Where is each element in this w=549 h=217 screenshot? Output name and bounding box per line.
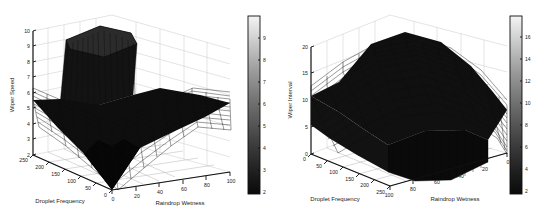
figure-canvas: 10 9 8 7 6 5 4 3 2 Wiper Speed 250 [0,0,549,217]
left-xtick-1: 200 [35,164,44,170]
left-surface-mesh [33,26,231,190]
right-ytick-0: 100 [385,192,394,198]
right-xtick-4: 200 [360,182,369,188]
right-z-axis: 20 15 10 5 0 Wiper Interval [287,44,314,157]
left-ztick-2: 8 [27,59,30,65]
left-plot-svg: 10 9 8 7 6 5 4 3 2 Wiper Speed 250 [0,0,274,217]
left-x-axis-title: Droplet Frequency [35,198,84,204]
right-ytick-2: 60 [434,179,440,185]
left-cbtick-3: 6 [263,101,266,107]
right-surface-mesh [311,32,507,181]
right-xtick-0: 0 [303,156,306,162]
right-ytick-4: 20 [482,166,488,172]
right-plot-svg: 20 15 10 5 0 Wiper Interval 0 50 100 150 [275,0,549,217]
left-z-axis-title: Wiper Speed [9,78,15,113]
left-cbtick-1: 8 [263,57,266,63]
right-xtick-2: 100 [329,169,338,175]
right-cbtick-0: 16 [525,34,531,40]
surface-plot-right: 20 15 10 5 0 Wiper Interval 0 50 100 150 [275,0,549,217]
left-ztick-0: 10 [24,28,30,34]
surface-plot-left: 10 9 8 7 6 5 4 3 2 Wiper Speed 250 [0,0,274,217]
right-ztick-0: 20 [302,44,308,50]
left-cbtick-0: 9 [263,35,266,41]
left-xtick-2: 150 [51,171,60,177]
left-ytick-5: 100 [227,178,236,184]
right-ytick-5: 0 [507,159,510,165]
right-x-axis-title: Droplet Frequency [310,196,359,202]
left-ytick-2: 40 [157,189,163,195]
left-cbtick-6: 3 [263,167,266,173]
left-cbtick-2: 7 [263,79,266,85]
left-cbtick-7: 2 [263,189,266,195]
right-ytick-3: 40 [458,173,464,179]
right-cbtick-6: 4 [525,166,528,172]
right-cbtick-3: 10 [525,100,531,106]
right-y-axis-title: Raindrop Wetness [430,196,479,202]
right-ztick-2: 10 [302,97,308,103]
left-ztick-6: 4 [27,121,30,127]
right-ytick-1: 80 [410,186,416,192]
left-ztick-7: 3 [27,136,30,142]
right-z-axis-title: Wiper Interval [287,81,293,118]
left-y-axis-title: Raindrop Wetness [155,200,204,206]
right-cbtick-5: 6 [525,144,528,150]
left-cbtick-4: 5 [263,123,266,129]
left-xtick-0: 250 [19,157,28,163]
left-colorbar[interactable]: 9 8 7 6 5 4 3 2 [248,16,266,195]
left-ztick-3: 7 [27,74,30,80]
right-cbtick-4: 8 [525,122,528,128]
left-xtick-4: 50 [85,185,91,191]
right-xtick-3: 150 [345,176,354,182]
left-y-axis: 0 20 40 60 80 100 Raindrop Wetness [112,172,236,206]
left-ztick-4: 6 [27,90,30,96]
right-xtick-1: 50 [316,163,322,169]
left-xtick-3: 100 [67,178,76,184]
left-cbtick-5: 4 [263,145,266,151]
left-ytick-3: 60 [181,186,187,192]
right-cbtick-2: 12 [525,78,531,84]
left-ztick-5: 5 [27,105,30,111]
right-ztick-1: 15 [302,70,308,76]
left-ytick-0: 0 [112,196,115,202]
left-ytick-1: 20 [134,193,140,199]
left-ztick-1: 9 [27,43,30,49]
right-ztick-3: 5 [305,124,308,130]
right-cbtick-1: 14 [525,56,531,62]
right-cbtick-7: 2 [525,188,528,194]
left-z-axis: 10 9 8 7 6 5 4 3 2 Wiper Speed [9,28,36,158]
left-ytick-4: 80 [204,182,210,188]
left-xtick-5: 0 [104,192,107,198]
right-colorbar[interactable]: 16 14 12 10 8 6 4 2 [510,16,531,194]
